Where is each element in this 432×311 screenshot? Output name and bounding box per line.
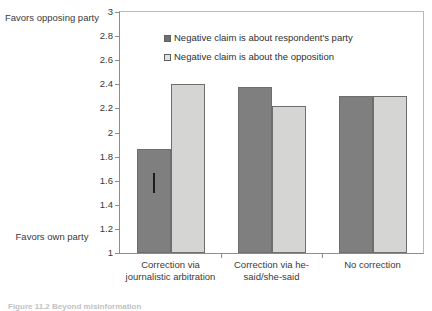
y-axis-tick-label: 2 [108, 128, 113, 138]
bar [171, 84, 205, 253]
bar [272, 106, 306, 253]
legend-item: Negative claim is about the opposition [164, 52, 353, 62]
y-axis-tick-label: 1 [108, 248, 113, 258]
axis-annotation-top: Favors opposing party [4, 12, 100, 24]
figure-caption: Figure 11.2 Beyond misinformation [8, 302, 308, 311]
x-axis-separator [322, 253, 323, 258]
y-axis-tick-label: 3 [108, 7, 113, 17]
y-axis-tick-label: 1.6 [100, 176, 113, 186]
figure-container: Favors opposing party Favors own party 3… [0, 0, 432, 311]
bar [339, 96, 373, 253]
y-axis-tick-label: 2.2 [100, 104, 113, 114]
legend-swatch-icon [164, 35, 171, 42]
y-axis: 32.82.62.42.221.81.61.41.21 [95, 11, 119, 254]
y-axis-tick-label: 1.2 [100, 224, 113, 234]
axis-annotation-bottom: Favors own party [4, 231, 100, 243]
bar [238, 87, 272, 253]
y-axis-tick-label: 1.8 [100, 152, 113, 162]
x-axis-separator [221, 253, 222, 258]
legend-label: Negative claim is about the opposition [174, 52, 334, 62]
y-axis-tick-label: 2.6 [100, 55, 113, 65]
y-axis-tick-label: 2.8 [100, 31, 113, 41]
bar [137, 149, 171, 253]
error-bar [153, 173, 155, 192]
legend-swatch-icon [164, 54, 171, 61]
bar [373, 96, 407, 253]
legend-label: Negative claim is about respondent's par… [174, 33, 353, 43]
x-axis-category-label: Correction via journalistic arbitration [120, 259, 221, 282]
x-axis-category-label: Correction via he-said/she-said [221, 259, 322, 282]
legend-item: Negative claim is about respondent's par… [164, 33, 353, 43]
y-axis-tick-label: 1.4 [100, 200, 113, 210]
x-axis-category-label: No correction [322, 259, 423, 271]
chart-legend: Negative claim is about respondent's par… [164, 33, 353, 71]
y-axis-tick-label: 2.4 [100, 80, 113, 90]
